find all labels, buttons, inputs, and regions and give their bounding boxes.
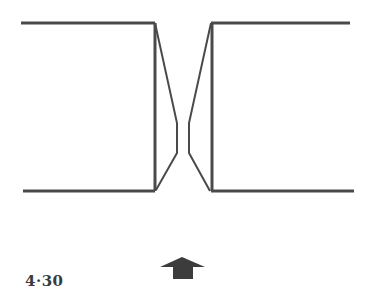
constriction-diagram <box>0 0 373 300</box>
right-channel <box>211 23 354 191</box>
up-arrow-icon <box>160 257 205 279</box>
left-taper <box>155 23 177 190</box>
figure-label: 4·30 <box>25 272 64 290</box>
left-channel <box>21 23 155 191</box>
left-taper-outline <box>155 23 177 190</box>
right-taper <box>189 23 211 191</box>
right-taper-outline <box>189 23 211 191</box>
